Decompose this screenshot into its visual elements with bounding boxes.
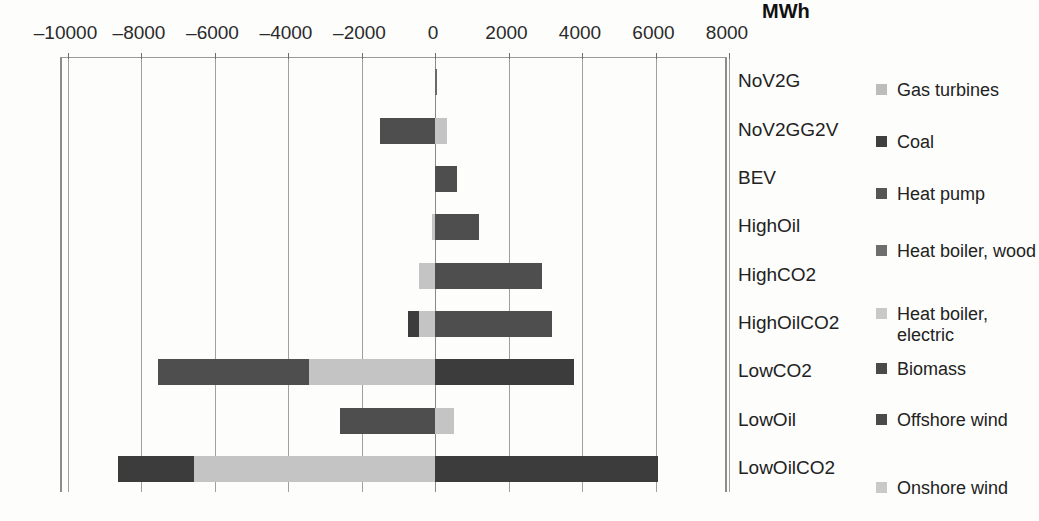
legend-swatch-icon bbox=[876, 308, 887, 319]
category-label: LowCO2 bbox=[738, 360, 812, 382]
bar-segment bbox=[194, 456, 435, 482]
bar-segment bbox=[435, 69, 437, 95]
legend-item[interactable]: Biomass bbox=[876, 359, 966, 380]
bar-segment bbox=[340, 408, 435, 434]
x-tick-label: –8000 bbox=[113, 22, 166, 44]
legend-swatch-icon bbox=[876, 136, 887, 147]
bar-segment bbox=[435, 359, 574, 385]
chart-container: –10000–8000–6000–4000–200002000400060008… bbox=[0, 0, 1039, 521]
bar-segment bbox=[158, 359, 309, 385]
tick-mark bbox=[68, 53, 69, 59]
bar-row bbox=[62, 359, 725, 385]
bar-segment bbox=[435, 408, 454, 434]
tick-mark bbox=[656, 53, 657, 59]
plot-area bbox=[60, 57, 727, 492]
x-tick-label: 0 bbox=[428, 22, 439, 44]
bar-segment bbox=[435, 311, 552, 337]
bar-segment bbox=[309, 359, 435, 385]
category-label: NoV2GG2V bbox=[738, 119, 838, 141]
x-tick-label: 8000 bbox=[706, 22, 748, 44]
legend-swatch-icon bbox=[876, 414, 887, 425]
category-label: HighCO2 bbox=[738, 264, 816, 286]
bar-segment bbox=[435, 263, 542, 289]
category-labels: NoV2GNoV2GG2VBEVHighOilHighCO2HighOilCO2… bbox=[738, 57, 868, 492]
bar-segment bbox=[435, 214, 479, 240]
legend-label: Offshore wind bbox=[897, 410, 1008, 431]
legend-item[interactable]: Heat boiler, wood bbox=[876, 241, 1036, 262]
category-label: LowOil bbox=[738, 409, 796, 431]
legend-swatch-icon bbox=[876, 482, 887, 493]
legend-swatch-icon bbox=[876, 188, 887, 199]
bar-row bbox=[62, 118, 725, 144]
x-tick-label: 6000 bbox=[632, 22, 674, 44]
legend-label: Heat boiler, wood bbox=[897, 241, 1036, 262]
bar-segment bbox=[435, 456, 658, 482]
bar-row bbox=[62, 456, 725, 482]
bar-segment bbox=[435, 166, 457, 192]
bar-row bbox=[62, 408, 725, 434]
legend-label: Heat pump bbox=[897, 184, 985, 205]
bar-segment bbox=[408, 311, 419, 337]
x-tick-label: 2000 bbox=[485, 22, 527, 44]
x-tick-label: –6000 bbox=[186, 22, 239, 44]
legend-item[interactable]: Heat boiler, electric bbox=[876, 304, 1039, 346]
legend-item[interactable]: Onshore wind bbox=[876, 478, 1008, 499]
bar-segment bbox=[118, 456, 194, 482]
legend-swatch-icon bbox=[876, 245, 887, 256]
tick-mark bbox=[582, 53, 583, 59]
bar-row bbox=[62, 263, 725, 289]
category-label: HighOil bbox=[738, 215, 800, 237]
legend-item[interactable]: Heat pump bbox=[876, 184, 985, 205]
axis-unit-label: MWh bbox=[762, 0, 810, 22]
legend-label: Onshore wind bbox=[897, 478, 1008, 499]
tick-mark bbox=[215, 53, 216, 59]
gridline bbox=[729, 58, 730, 492]
tick-mark bbox=[288, 53, 289, 59]
legend-label: Coal bbox=[897, 132, 934, 153]
legend-swatch-icon bbox=[876, 363, 887, 374]
bar-segment bbox=[435, 118, 447, 144]
x-axis-labels: –10000–8000–6000–4000–200002000400060008… bbox=[0, 22, 1039, 48]
legend-item[interactable]: Offshore wind bbox=[876, 410, 1008, 431]
legend-swatch-icon bbox=[876, 84, 887, 95]
category-label: NoV2G bbox=[738, 70, 800, 92]
bar-segment bbox=[419, 311, 435, 337]
tick-mark bbox=[435, 53, 436, 59]
category-label: LowOilCO2 bbox=[738, 457, 835, 479]
legend-label: Gas turbines bbox=[897, 80, 999, 101]
legend-label: Heat boiler, electric bbox=[897, 304, 1039, 346]
x-tick-label: –4000 bbox=[260, 22, 313, 44]
x-tick-label: –2000 bbox=[333, 22, 386, 44]
bar-row bbox=[62, 214, 725, 240]
category-label: BEV bbox=[738, 167, 776, 189]
bar-segment bbox=[419, 263, 435, 289]
legend-label: Biomass bbox=[897, 359, 966, 380]
bar-row bbox=[62, 311, 725, 337]
tick-mark bbox=[362, 53, 363, 59]
tick-mark bbox=[729, 53, 730, 59]
tick-mark bbox=[509, 53, 510, 59]
x-tick-label: 4000 bbox=[559, 22, 601, 44]
legend-item[interactable]: Coal bbox=[876, 132, 934, 153]
tick-mark bbox=[141, 53, 142, 59]
bar-row bbox=[62, 166, 725, 192]
bar-row bbox=[62, 69, 725, 95]
legend-item[interactable]: Gas turbines bbox=[876, 80, 999, 101]
bar-segment bbox=[380, 118, 435, 144]
x-tick-label: –10000 bbox=[34, 22, 97, 44]
category-label: HighOilCO2 bbox=[738, 312, 839, 334]
